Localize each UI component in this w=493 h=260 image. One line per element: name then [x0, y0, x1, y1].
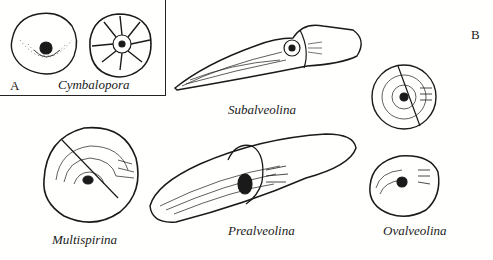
ovalveolina-top-drawing [372, 65, 436, 129]
label-cymbalopora: Cymbalopora [58, 77, 130, 93]
cymbalopora-dorsal-drawing [11, 13, 76, 74]
foraminifera-figure: A B Cymbalopora Subalveolina Multispirin… [0, 0, 493, 260]
label-prealveolina: Prealveolina [228, 223, 295, 239]
label-ovalveolina: Ovalveolina [383, 223, 447, 239]
cymbalopora-ventral-drawing [90, 14, 151, 77]
ovalveolina-bottom-drawing [370, 156, 439, 216]
panel-label-a: A [10, 78, 19, 94]
panel-label-b: B [471, 27, 480, 43]
subalveolina-drawing [175, 25, 361, 90]
label-multispirina: Multispirina [52, 232, 117, 248]
illustrations [0, 0, 493, 260]
label-subalveolina: Subalveolina [228, 102, 296, 118]
prealveolina-drawing [150, 134, 356, 222]
multispirina-drawing [44, 128, 138, 223]
